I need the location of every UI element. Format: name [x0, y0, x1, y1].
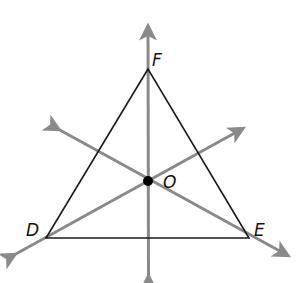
triangle-concurrency-diagram: F D E O [0, 0, 297, 283]
label-F: F [152, 50, 162, 70]
vertical-line-through-F [148, 27, 149, 277]
line-through-D-and-O [14, 129, 242, 255]
label-O: O [163, 172, 176, 192]
label-E: E [254, 220, 265, 240]
point-O [143, 176, 153, 186]
line-through-E-and-O [58, 129, 287, 255]
concurrent-lines [14, 27, 287, 277]
label-D: D [26, 220, 39, 240]
